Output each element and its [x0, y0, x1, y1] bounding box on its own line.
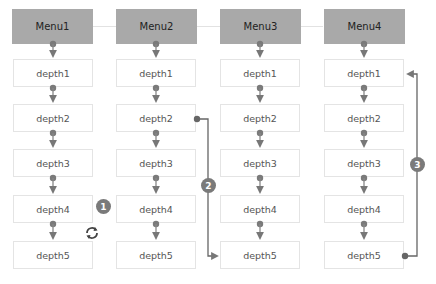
menu-flow-diagram: Menu1 depth1 depth2 depth3 depth4 depth5… — [0, 0, 436, 284]
annotation-badge-3: 3 — [410, 157, 425, 172]
refresh-icon — [83, 224, 101, 242]
annotation-badge-2: 2 — [201, 178, 216, 193]
flow-connectors — [0, 0, 436, 284]
annotation-badge-1: 1 — [96, 199, 111, 214]
